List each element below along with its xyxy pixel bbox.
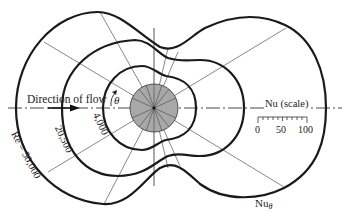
nu-theta-main: Nu <box>255 197 268 209</box>
flow-arrow-icon <box>48 105 80 112</box>
nu-theta-label: Nuθ <box>255 198 272 211</box>
nu-scale-title: Nu (scale) <box>264 99 309 110</box>
nu-scale-bar <box>258 117 307 123</box>
nu-scale-tick-100: 100 <box>298 125 313 135</box>
flow-direction-label: Direction of flow <box>27 94 107 106</box>
theta-label: θ <box>114 95 119 106</box>
nu-scale-tick-0: 0 <box>255 125 260 135</box>
nu-theta-subscript: θ <box>268 202 272 211</box>
nu-scale-tick-50: 50 <box>276 125 286 135</box>
